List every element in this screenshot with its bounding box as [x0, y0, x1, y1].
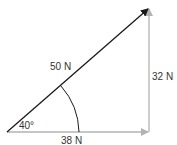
- horizontal-component-label: 38 N: [61, 135, 82, 145]
- force-vector-diagram: 50 N 32 N 38 N 40°: [0, 0, 177, 145]
- angle-arc: [61, 86, 79, 132]
- vertical-component-label: 32 N: [152, 71, 173, 82]
- resultant-vector-arrow: [7, 9, 148, 132]
- resultant-label: 50 N: [50, 61, 71, 72]
- angle-label: 40°: [19, 120, 34, 131]
